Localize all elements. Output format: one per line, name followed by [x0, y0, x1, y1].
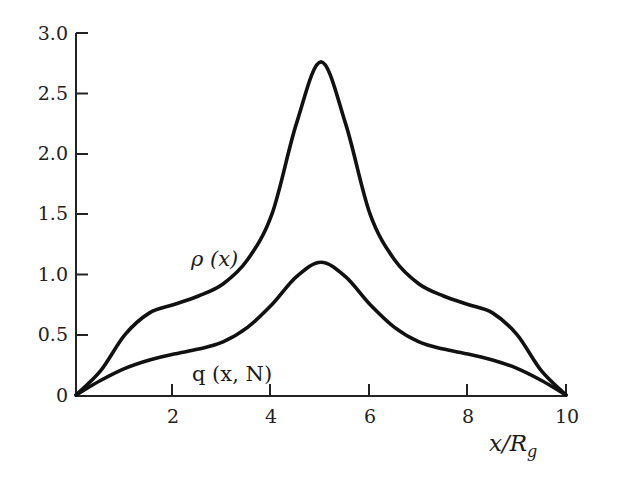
x-axis: [75, 384, 567, 396]
chart: 0 0.5 1.0 1.5 2.0 2.5 3.0 2 4 6 8 10 x/R…: [0, 0, 639, 477]
y-tick-label: 0: [56, 384, 68, 406]
y-tick-label: 3.0: [38, 22, 68, 44]
y-tick-label: 1.5: [38, 202, 68, 224]
y-tick-label: 1.0: [38, 263, 68, 285]
rho-curve-label: ρ (x): [190, 247, 238, 271]
y-axis: [76, 33, 88, 396]
x-axis-title: x/Rg: [489, 430, 537, 461]
q-curve: [76, 262, 566, 395]
x-tick-label: 4: [265, 405, 277, 427]
x-tick-label: 10: [555, 405, 579, 427]
q-curve-label: q (x, N): [192, 362, 272, 386]
y-tick-labels: 0 0.5 1.0 1.5 2.0 2.5 3.0: [38, 22, 68, 406]
x-tick-label: 2: [167, 405, 179, 427]
y-tick-label: 2.0: [38, 142, 68, 164]
rho-curve: [76, 62, 566, 395]
x-tick-label: 8: [462, 405, 474, 427]
x-tick-label: 6: [364, 405, 376, 427]
y-tick-label: 0.5: [38, 323, 68, 345]
y-tick-label: 2.5: [38, 82, 68, 104]
x-tick-labels: 2 4 6 8 10: [167, 405, 579, 427]
